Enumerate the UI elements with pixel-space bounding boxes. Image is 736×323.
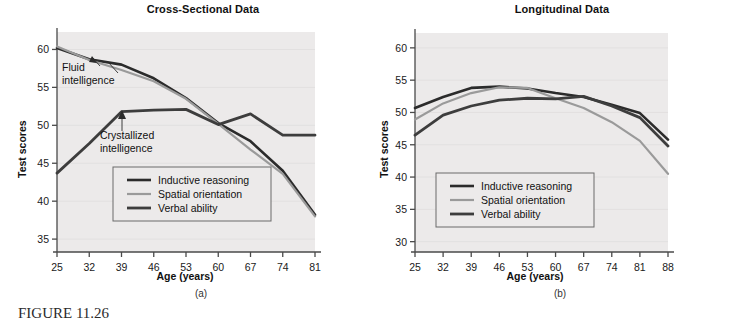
longitudinal-x-tick-label: 88 <box>662 261 674 273</box>
panel-cross-sectional: Cross-Sectional Data Test scores Age (ye… <box>0 0 368 300</box>
figure-caption: FIGURE 11.26 <box>18 305 109 322</box>
cross-sectional-y-tick-label: 40 <box>37 195 49 207</box>
longitudinal-y-tick-label: 30 <box>395 236 407 248</box>
cross-sectional-x-tick-label: 25 <box>51 261 63 273</box>
cross-sectional-x-tick-label: 67 <box>245 261 257 273</box>
panel-a-plot: 354045505560253239465360677481Fluidintel… <box>0 0 368 300</box>
longitudinal-x-tick-label: 32 <box>437 261 449 273</box>
longitudinal-y-tick-label: 55 <box>395 74 407 86</box>
longitudinal-x-tick-label: 60 <box>550 261 562 273</box>
cross-sectional-x-tick-label: 74 <box>277 261 289 273</box>
longitudinal-y-tick-label: 60 <box>395 42 407 54</box>
cross-sectional-legend-label-inductive-reasoning: Inductive reasoning <box>158 174 249 186</box>
cross-sectional-legend-label-spatial-orientation: Spatial orientation <box>158 188 242 200</box>
longitudinal-y-tick-label: 35 <box>395 203 407 215</box>
longitudinal-x-tick-label: 53 <box>522 261 534 273</box>
cross-sectional-y-tick-label: 45 <box>37 157 49 169</box>
cross-sectional-x-tick-label: 81 <box>309 261 321 273</box>
longitudinal-y-tick-label: 45 <box>395 139 407 151</box>
cross-sectional-y-tick-label: 60 <box>37 43 49 55</box>
cross-sectional-legend-label-verbal-ability: Verbal ability <box>158 202 218 214</box>
longitudinal-y-tick-label: 50 <box>395 106 407 118</box>
longitudinal-x-tick-label: 39 <box>465 261 477 273</box>
cross-sectional-y-tick-label: 50 <box>37 119 49 131</box>
cross-sectional-x-tick-label: 60 <box>212 261 224 273</box>
longitudinal-legend-label-spatial-orientation: Spatial orientation <box>481 194 565 206</box>
panel-longitudinal: Longitudinal Data Test scores Age (years… <box>368 0 736 300</box>
longitudinal-y-tick-label: 40 <box>395 171 407 183</box>
longitudinal-x-tick-label: 25 <box>409 261 421 273</box>
crystallized-intelligence-label-line1: Crystallized <box>100 129 154 141</box>
panel-b-plot: 3035404550556025323946536067748188Induct… <box>368 0 736 300</box>
fluid-intelligence-label-line2: intelligence <box>62 74 115 86</box>
longitudinal-x-tick-label: 81 <box>634 261 646 273</box>
cross-sectional-x-tick-label: 46 <box>148 261 160 273</box>
cross-sectional-y-tick-label: 35 <box>37 233 49 245</box>
longitudinal-x-tick-label: 67 <box>578 261 590 273</box>
fluid-intelligence-label-line1: Fluid <box>62 61 85 73</box>
longitudinal-legend-label-inductive-reasoning: Inductive reasoning <box>481 180 572 192</box>
figure-11-26: Cross-Sectional Data Test scores Age (ye… <box>0 0 736 323</box>
longitudinal-legend-label-verbal-ability: Verbal ability <box>481 208 541 220</box>
crystallized-intelligence-label-line2: intelligence <box>100 142 153 154</box>
cross-sectional-x-tick-label: 32 <box>83 261 95 273</box>
longitudinal-x-tick-label: 46 <box>493 261 505 273</box>
longitudinal-x-tick-label: 74 <box>606 261 618 273</box>
cross-sectional-x-tick-label: 53 <box>180 261 192 273</box>
cross-sectional-x-tick-label: 39 <box>116 261 128 273</box>
cross-sectional-y-tick-label: 55 <box>37 81 49 93</box>
